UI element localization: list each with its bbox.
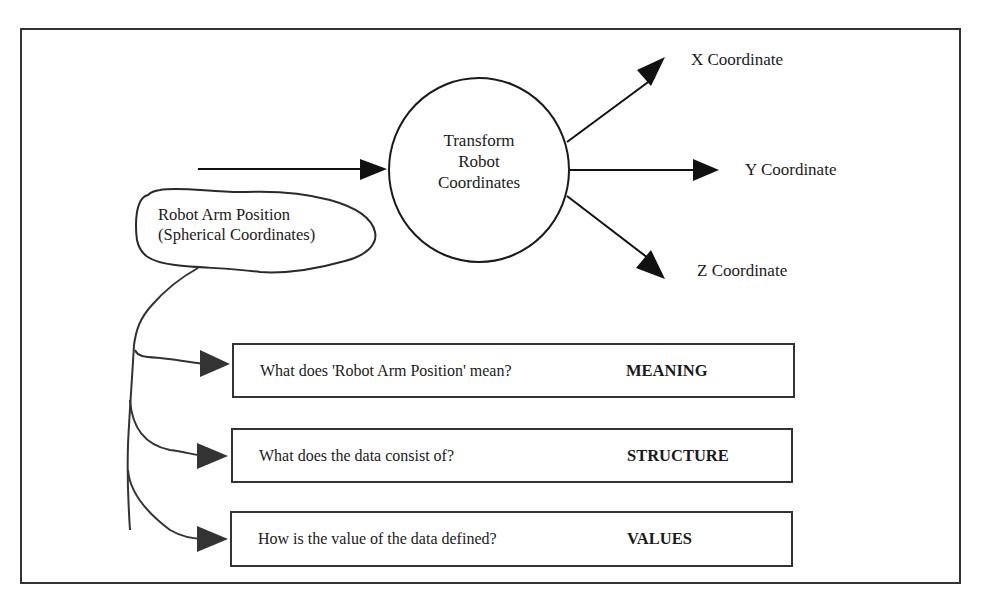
question-box-values: How is the value of the data defined? VA… <box>230 511 793 567</box>
process-label-line-3: Coordinates <box>409 172 549 193</box>
output-x-label: X Coordinate <box>691 51 783 70</box>
branch-meaning <box>135 350 205 364</box>
output-z-label: Z Coordinate <box>697 262 787 281</box>
aspect-label: VALUES <box>627 529 692 549</box>
process-label-line-2: Robot <box>409 151 549 172</box>
aspect-label: MEANING <box>626 361 708 381</box>
input-arrow-icon <box>198 159 387 180</box>
x-output-arrow-icon <box>567 57 665 142</box>
process-label: Transform Robot Coordinates <box>409 130 549 193</box>
input-label-line-2: (Spherical Coordinates) <box>158 225 315 245</box>
y-output-arrow-icon <box>570 159 719 181</box>
arrow-structure-icon <box>197 443 228 469</box>
question-text: What does the data consist of? <box>259 447 454 465</box>
z-output-arrow-icon <box>567 196 665 279</box>
question-box-structure: What does the data consist of? STRUCTURE <box>231 428 793 483</box>
question-box-meaning: What does 'Robot Arm Position' mean? MEA… <box>232 343 795 398</box>
process-label-line-1: Transform <box>409 130 549 151</box>
input-label-line-1: Robot Arm Position <box>158 205 315 225</box>
arrow-meaning-icon <box>200 350 230 377</box>
aspect-label: STRUCTURE <box>627 446 729 466</box>
arrow-values-icon <box>197 526 228 552</box>
question-text: What does 'Robot Arm Position' mean? <box>260 362 512 380</box>
output-y-label: Y Coordinate <box>745 161 836 180</box>
branch-structure <box>130 400 205 456</box>
input-label: Robot Arm Position (Spherical Coordinate… <box>158 205 315 245</box>
branch-values <box>128 470 205 539</box>
callout-connector <box>128 268 198 530</box>
question-text: How is the value of the data defined? <box>258 530 497 548</box>
